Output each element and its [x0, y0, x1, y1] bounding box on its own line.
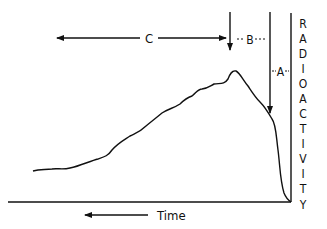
y-axis-letter: I: [301, 167, 304, 181]
y-axis-letter: C: [299, 107, 307, 121]
y-axis-label: R A D I O A C T I V I T Y: [299, 17, 308, 212]
y-axis-letter: A: [299, 32, 307, 46]
y-axis-letter: R: [299, 17, 307, 31]
y-axis-letter: D: [299, 47, 307, 61]
y-axis-letter: A: [299, 92, 307, 106]
y-axis-letter: V: [299, 152, 307, 166]
y-axis-letter: I: [301, 137, 304, 151]
segment-a-label: A: [277, 65, 285, 79]
x-axis-label: Time: [156, 208, 186, 223]
y-axis-letter: T: [299, 182, 307, 196]
y-axis-letter: I: [301, 62, 304, 76]
diagram-canvas: C B A R A D I O A C T I V I T Y Time: [0, 0, 327, 229]
y-axis-letter: Y: [299, 198, 307, 212]
y-axis-letter: T: [299, 122, 307, 136]
radioactivity-curve: [33, 71, 291, 202]
y-axis-letter: O: [299, 77, 308, 91]
segment-b-label: B: [246, 33, 253, 47]
segment-c-label: C: [145, 31, 153, 46]
radioactivity-diagram: C B A R A D I O A C T I V I T Y Time: [0, 0, 327, 229]
